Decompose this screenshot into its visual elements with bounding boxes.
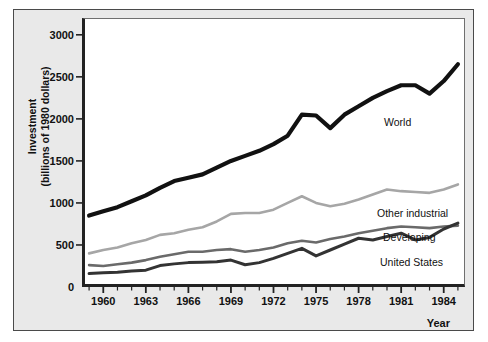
x-tick-label: 1966 (168, 295, 208, 307)
x-tick-label: 1963 (126, 295, 166, 307)
series-label-united-states: United States (380, 256, 443, 268)
x-tick-label: 1984 (424, 295, 464, 307)
series-line (89, 64, 458, 215)
x-tick-label: 1978 (339, 295, 379, 307)
y-tick-marks (76, 35, 82, 245)
y-tick-label: 2500 (34, 71, 74, 83)
y-tick-label: 3000 (34, 29, 74, 41)
x-tick-label: 1960 (83, 295, 123, 307)
series-label-other-industrial: Other industrial (377, 207, 448, 219)
chart-figure: Investment (billions of 1980 dollars) Ye… (0, 0, 488, 342)
x-tick-label: 1972 (254, 295, 294, 307)
y-tick-label: 0 (34, 281, 74, 293)
y-tick-label: 2000 (34, 113, 74, 125)
x-tick-marks (89, 287, 458, 293)
series-label-developing: Developing (383, 231, 436, 243)
x-tick-label: 1969 (211, 295, 251, 307)
x-tick-label: 1975 (296, 295, 336, 307)
series-label-world: World (384, 116, 411, 128)
x-tick-label: 1981 (381, 295, 421, 307)
y-tick-label: 1500 (34, 155, 74, 167)
y-tick-label: 1000 (34, 197, 74, 209)
y-tick-label: 500 (34, 239, 74, 251)
